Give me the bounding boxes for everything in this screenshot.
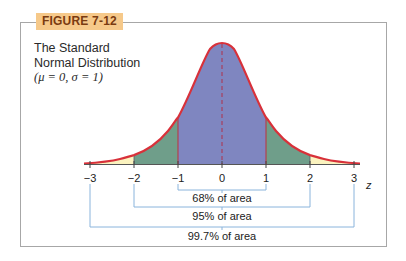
tick-label-plus-3: 3 [351, 172, 357, 184]
tick-label-0: 0 [219, 172, 225, 184]
bracket-68 [178, 184, 266, 190]
label-68-percent: 68% of area [192, 192, 252, 204]
tick-label-plus-2: 2 [307, 172, 313, 184]
tick-label-plus-1: 1 [263, 172, 269, 184]
label-99-7-percent: 99.7% of area [188, 230, 257, 242]
label-95-percent: 95% of area [192, 210, 252, 222]
normal-distribution-chart: −3 −2 −1 0 1 2 3 z 68% of area 95% of ar… [0, 0, 406, 261]
tick-label-minus-1: −1 [172, 172, 185, 184]
left-middle-region [134, 118, 178, 164]
z-axis-label: z [365, 179, 372, 191]
right-middle-region [266, 118, 310, 164]
tick-label-minus-2: −2 [128, 172, 141, 184]
tick-label-minus-3: −3 [84, 172, 97, 184]
